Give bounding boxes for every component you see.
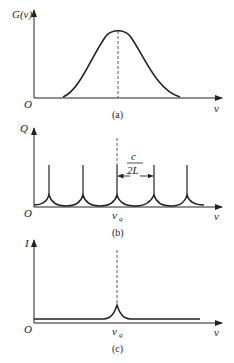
spacing-numerator: c [131, 150, 136, 162]
center-subscript: q [119, 331, 123, 339]
y-axis-label: G(ν) [12, 8, 32, 21]
gain-curve [63, 31, 180, 97]
center-label: ν [112, 325, 117, 337]
y-axis-label: I [24, 237, 30, 249]
center-subscript: q [119, 215, 123, 223]
resonance-curve [34, 195, 204, 206]
y-axis-label: Q [20, 122, 28, 134]
x-axis-label: ν [214, 102, 219, 114]
panel-a: G(ν) O ν (a) [12, 8, 222, 121]
caption: (c) [112, 343, 123, 355]
x-axis-label: ν [214, 210, 219, 222]
center-label: ν [112, 209, 117, 221]
caption: (a) [112, 109, 123, 121]
panel-c: I O ν ν q (c) [24, 237, 222, 355]
origin-label: O [24, 207, 32, 219]
panel-b: c 2L Q O ν ν q (b) [20, 122, 222, 239]
laser-spectrum-diagram: G(ν) O ν (a) c 2L Q O ν ν q (b) I O ν ν [0, 0, 234, 363]
intensity-curve [34, 305, 200, 319]
origin-label: O [24, 98, 32, 110]
spacing-denominator: 2L [127, 164, 139, 176]
caption: (b) [112, 227, 124, 239]
origin-label: O [24, 323, 32, 335]
x-axis-label: ν [214, 326, 219, 338]
